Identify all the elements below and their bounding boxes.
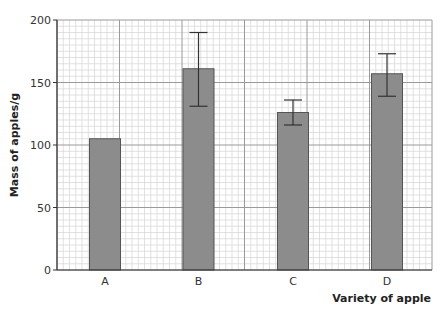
y-tick-label: 200: [30, 14, 51, 27]
x-tick-label: C: [289, 275, 297, 288]
y-axis-label: Mass of apples/g: [8, 93, 21, 197]
y-tick-label: 0: [44, 264, 51, 277]
x-axis-label: Variety of apple: [332, 292, 431, 305]
y-tick-label: 150: [30, 77, 51, 90]
x-tick-label: D: [383, 275, 391, 288]
error-bars: [190, 33, 397, 126]
x-tick-label: B: [195, 275, 203, 288]
bar-a: [90, 139, 121, 270]
y-tick-label: 50: [37, 202, 51, 215]
y-tick-label: 100: [30, 139, 51, 152]
bar-d: [372, 74, 403, 270]
bar-c: [278, 113, 309, 271]
bar-chart: 050100150200 ABCD Mass of apples/g Varie…: [0, 0, 443, 314]
bars: [90, 69, 403, 270]
x-tick-labels: ABCD: [101, 275, 391, 288]
x-tick-label: A: [101, 275, 109, 288]
y-tick-labels: 050100150200: [30, 14, 51, 277]
